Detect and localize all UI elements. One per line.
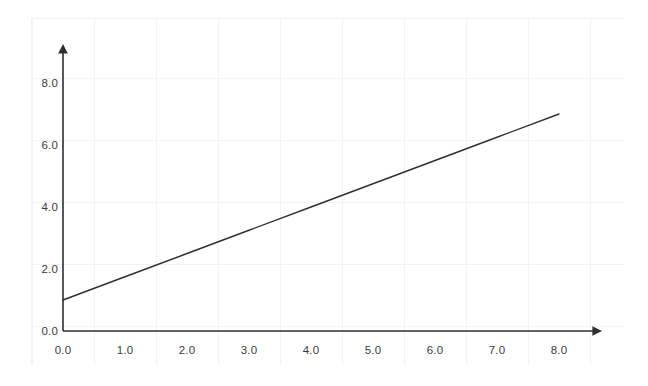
x-tick-label: 7.0	[489, 344, 506, 356]
y-tick-label: 2.0	[28, 263, 58, 275]
x-tick-label: 5.0	[365, 344, 382, 356]
x-tick-label: 2.0	[179, 344, 196, 356]
plot-canvas	[0, 0, 648, 386]
chart-figure: 0.02.04.06.08.0 0.01.02.03.04.05.06.07.0…	[0, 0, 648, 386]
y-tick-label: 8.0	[28, 77, 58, 89]
x-tick-label: 3.0	[241, 344, 258, 356]
data-series-line	[63, 114, 559, 300]
x-tick-label: 1.0	[117, 344, 134, 356]
x-tick-label: 4.0	[303, 344, 320, 356]
y-tick-label: 4.0	[28, 201, 58, 213]
x-tick-label: 0.0	[55, 344, 72, 356]
y-tick-label: 6.0	[28, 139, 58, 151]
x-tick-label: 8.0	[551, 344, 568, 356]
y-tick-label: 0.0	[28, 325, 58, 337]
x-tick-label: 6.0	[427, 344, 444, 356]
